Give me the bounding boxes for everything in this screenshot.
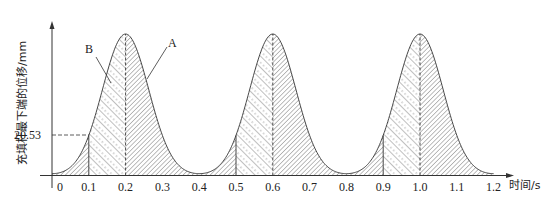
callout-a-leader — [147, 47, 167, 79]
x-tick-label: 1.1 — [449, 180, 464, 194]
callout-a-label: A — [168, 36, 177, 50]
x-tick-label: 0.9 — [376, 180, 391, 194]
x-tick-label: 0.8 — [339, 180, 354, 194]
callout-b-label: B — [85, 42, 93, 56]
x-axis-title: 时间/s — [509, 179, 541, 192]
y-axis-title: 充填杆最下端的位移/mm — [15, 41, 29, 165]
x-tick-label: 0.1 — [81, 180, 96, 194]
x-tick-label: 0.3 — [155, 180, 170, 194]
x-axis-arrow-icon — [506, 173, 514, 178]
region-a — [273, 20, 383, 176]
x-tick-label: 0.5 — [229, 180, 244, 194]
x-tick-label: 0.2 — [118, 180, 133, 194]
region-a — [52, 20, 89, 176]
region-b — [383, 20, 420, 176]
region-a — [420, 20, 494, 176]
x-tick-label: 0.6 — [265, 180, 280, 194]
x-tick-labels: 00.10.20.30.40.50.60.70.80.91.01.11.2 — [57, 180, 501, 194]
region-a — [126, 20, 236, 176]
x-tick-label: 1.2 — [486, 180, 501, 194]
x-tick-label: 0.4 — [192, 180, 207, 194]
region-b — [89, 20, 126, 176]
displacement-chart: 20.53 00.10.20.30.40.50.60.70.80.91.01.1… — [0, 0, 555, 209]
x-tick-label: 1.0 — [413, 180, 428, 194]
x-tick-label: 0.7 — [302, 180, 317, 194]
region-b — [236, 20, 273, 176]
y-axis-arrow-icon — [50, 21, 55, 29]
x-tick-label: 0 — [57, 180, 63, 194]
